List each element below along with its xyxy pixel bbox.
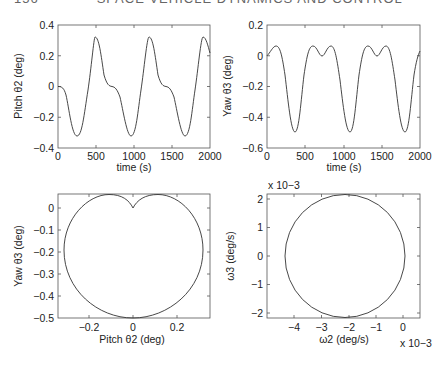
chart-yaw-vs-time: 0.2 0 −0.2 −0.4 −0.6 0 500 1000 1500 200… [221,19,432,173]
xtick: 2000 [408,150,432,162]
y-multiplier: x 10−3 [268,179,300,191]
ytick: 0 [48,202,54,214]
ytick: 0 [257,250,263,262]
xtick: −1 [370,321,382,333]
figure: 0.4 0.2 0 −0.2 −0.4 0 500 1000 1500 2000… [0,0,441,366]
xtick: 0 [55,150,61,162]
ytick: −0.2 [242,80,263,92]
x-axis-label: time (s) [117,161,152,173]
ytick: −0.1 [33,224,54,236]
xtick: −3 [316,321,328,333]
xtick: 500 [296,150,314,162]
phase-curve-heart [64,195,203,319]
xtick: 0 [400,321,406,333]
phase-curve-circle [285,195,405,318]
ytick: −0.3 [33,268,54,280]
chart-omega3-vs-omega2: x 10−3 2 1 0 −1 −2 −4 −3 −2 −1 0 ω2 (deg… [224,179,432,349]
ytick: 1 [257,221,263,233]
xtick: −2 [343,321,355,333]
y-axis-label: Pitch θ2 (deg) [12,53,24,118]
ytick: −0.6 [242,142,263,154]
x-axis-label: time (s) [327,161,362,173]
xtick: −4 [288,321,300,333]
xtick: −0.2 [79,321,100,333]
chart-pitch-vs-time: 0.4 0.2 0 −0.2 −0.4 0 500 1000 1500 2000… [12,19,222,173]
x-multiplier: x 10−3 [400,337,432,349]
ytick: −2 [251,307,263,319]
x-axis-label: ω2 (deg/s) [319,333,369,345]
x-axis-label: Pitch θ2 (deg) [99,333,164,345]
y-axis-label: Yaw θ3 (deg) [12,225,24,287]
y-axis-label: Yaw θ3 (deg) [221,55,233,117]
yaw-curve [267,46,420,132]
ytick: 0 [257,50,263,62]
ytick: 0 [48,80,54,92]
ytick: −0.4 [33,142,54,154]
ytick: −0.2 [33,111,54,123]
ytick: −0.5 [33,312,54,324]
ytick: 0.2 [39,50,54,62]
chart-yaw-vs-pitch: 0 −0.1 −0.2 −0.3 −0.4 −0.5 −0.2 0 0.2 Pi… [12,194,210,345]
xtick: 500 [87,150,105,162]
y-axis-label: ω3 (deg/s) [224,231,236,281]
ytick: −0.4 [242,111,263,123]
ytick: −0.4 [33,290,54,302]
xtick: 0.2 [170,321,185,333]
xtick: 2000 [198,150,222,162]
ytick: −1 [251,278,263,290]
pitch-curve [58,37,210,136]
xtick: 1500 [370,150,394,162]
ytick: 0.4 [39,19,54,31]
ytick: −0.2 [33,246,54,258]
xtick: 0 [130,321,136,333]
xtick: 1500 [160,150,184,162]
ytick: 2 [257,193,263,205]
xtick: 0 [264,150,270,162]
ytick: 0.2 [248,19,263,31]
